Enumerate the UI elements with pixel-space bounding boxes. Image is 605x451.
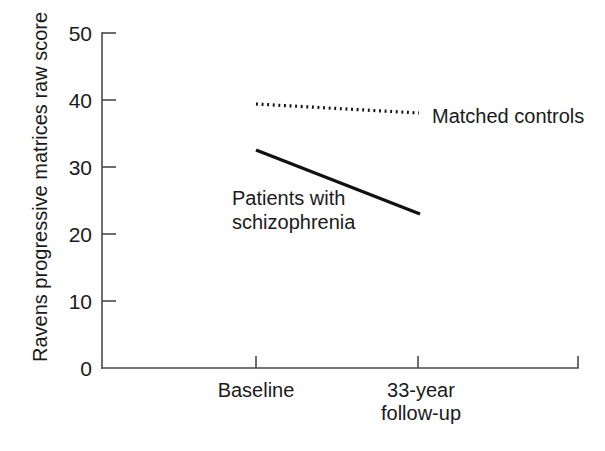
series-matched-controls xyxy=(256,104,419,113)
y-tick-label-30: 30 xyxy=(69,156,92,179)
y-tick-label-40: 40 xyxy=(69,89,92,112)
y-tick-label-0: 0 xyxy=(80,357,92,380)
y-tick-label-20: 20 xyxy=(69,223,92,246)
x-tick-label-followup-line1: 33-year xyxy=(387,379,455,401)
annotation-patients-line1: Patients with xyxy=(232,187,345,209)
y-tick-label-50: 50 xyxy=(69,22,92,45)
annotation-patients-line2: schizophrenia xyxy=(232,211,356,233)
annotation-matched-controls: Matched controls xyxy=(432,105,584,127)
x-tick-label-followup-line2: follow-up xyxy=(381,402,461,424)
line-chart: Ravens progressive matrices raw score 50… xyxy=(0,0,605,451)
chart-figure: Ravens progressive matrices raw score 50… xyxy=(0,0,605,451)
y-axis-label: Ravens progressive matrices raw score xyxy=(29,12,51,362)
x-tick-label-baseline: Baseline xyxy=(218,379,295,401)
y-tick-label-10: 10 xyxy=(69,290,92,313)
